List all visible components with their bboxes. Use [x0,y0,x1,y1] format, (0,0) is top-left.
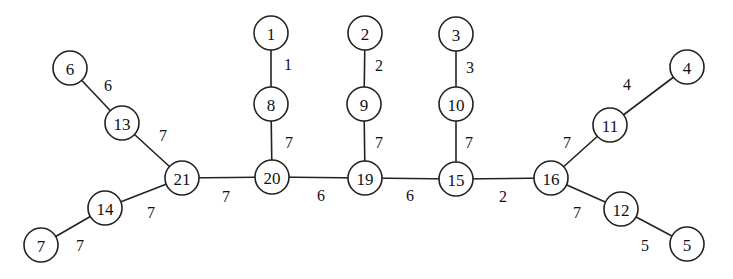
node-label: 4 [683,59,692,78]
node-label: 3 [452,26,461,45]
node-8: 8 [254,87,288,121]
node-12: 12 [604,192,638,226]
node-16: 16 [534,161,568,195]
node-13: 13 [105,106,139,140]
node-1: 1 [254,16,288,50]
node-label: 16 [543,170,560,189]
node-label: 15 [448,171,465,190]
node-label: 13 [114,115,131,134]
node-6: 6 [53,51,87,85]
node-label: 19 [357,170,374,189]
edge-weight-label: 7 [563,134,571,151]
node-label: 2 [361,25,370,44]
node-5: 5 [670,227,704,261]
node-2: 2 [348,16,382,50]
node-14: 14 [88,191,122,225]
node-7: 7 [24,228,58,262]
node-label: 1 [267,25,276,44]
node-label: 9 [360,96,369,115]
node-label: 5 [683,236,692,255]
edge-weight-label: 7 [76,237,84,254]
node-label: 12 [613,201,630,220]
node-label: 10 [448,96,465,115]
edge-weight-label: 6 [317,187,325,204]
edge-weight-label: 7 [222,188,230,205]
node-label: 21 [174,170,191,189]
tree-diagram: 677771762763727475 123456789101112131415… [0,0,733,279]
edge-weight-label: 1 [284,56,292,73]
node-21: 21 [165,161,199,195]
edges-layer [41,33,687,245]
node-3: 3 [439,17,473,51]
node-4: 4 [670,50,704,84]
edge-weight-label: 3 [466,59,474,76]
node-20: 20 [255,160,289,194]
node-label: 11 [602,117,618,136]
edge-weight-label: 4 [623,76,631,93]
node-15: 15 [439,162,473,196]
node-19: 19 [348,161,382,195]
edge-weight-label: 7 [285,134,293,151]
node-label: 7 [37,237,46,256]
edge-weight-label: 7 [573,204,581,221]
node-10: 10 [439,87,473,121]
edge-weight-label: 7 [465,134,473,151]
edge-weight-label: 2 [375,57,383,74]
node-9: 9 [347,87,381,121]
node-label: 6 [66,60,75,79]
edge-weight-label: 2 [499,188,507,205]
node-label: 8 [267,96,276,115]
edge-weight-label: 6 [104,77,112,94]
node-label: 14 [97,200,115,219]
node-11: 11 [593,108,627,142]
edge-weights-layer: 677771762763727475 [76,56,649,254]
edge-weight-label: 7 [159,127,167,144]
edge-weight-label: 5 [641,237,649,254]
edge-weight-label: 6 [406,187,414,204]
node-label: 20 [264,169,281,188]
edge-weight-label: 7 [375,134,383,151]
edge-weight-label: 7 [147,204,155,221]
